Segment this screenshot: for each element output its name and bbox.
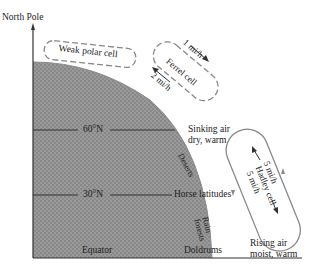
rising-air-line2: moist, warm <box>250 249 298 259</box>
north-pole-label: North Pole <box>2 13 43 23</box>
hadley-flow-arrow <box>231 190 235 196</box>
arrow-up-icon <box>31 23 35 30</box>
doldrums-label: Doldrums <box>184 246 222 256</box>
circulation-diagram <box>0 0 316 277</box>
horse-latitudes-label: Horse latitudes <box>174 190 231 200</box>
rising-air-line1: Rising air <box>250 238 287 248</box>
sinking-air-label: Sinking air dry, warm <box>188 124 230 146</box>
arrow-down-right-icon <box>273 207 278 214</box>
arrow-up-left-icon <box>252 146 257 153</box>
equator-label: Equator <box>82 246 112 256</box>
rising-air-label: Rising air moist, warm <box>250 238 298 260</box>
lat-60-label: 60°N <box>83 125 103 135</box>
sinking-air-line1: Sinking air <box>188 124 230 134</box>
lat-30-label: 30°N <box>83 190 103 200</box>
sinking-air-line2: dry, warm <box>188 135 226 145</box>
hadley-flow-arrow <box>281 168 285 174</box>
